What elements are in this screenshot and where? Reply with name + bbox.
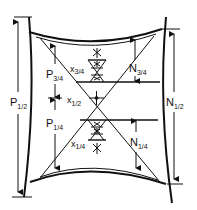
center-cross-mark <box>89 91 104 105</box>
right-side-curve <box>163 17 172 203</box>
label-n-three-quarter: N3/4 <box>129 62 147 76</box>
label-n-quarter: N1/4 <box>130 136 148 150</box>
label-n-half: N1/2 <box>166 96 184 110</box>
label-p-three-quarter: P3/4 <box>46 68 63 82</box>
label-p-quarter: P1/4 <box>46 117 63 131</box>
lower-hourglass <box>88 120 106 154</box>
top-curve-outer <box>29 29 162 41</box>
dimension-diagram: P1/2 N1/2 P3/4 P1/4 N3/4 N1/4 x1/2 x3/4 … <box>0 0 197 210</box>
label-x-quarter: x1/4 <box>71 139 85 150</box>
label-x-three-quarter: x3/4 <box>70 64 84 75</box>
label-x-half: x1/2 <box>67 95 81 107</box>
upper-hourglass <box>88 48 106 82</box>
label-p-half: P1/2 <box>10 96 27 110</box>
